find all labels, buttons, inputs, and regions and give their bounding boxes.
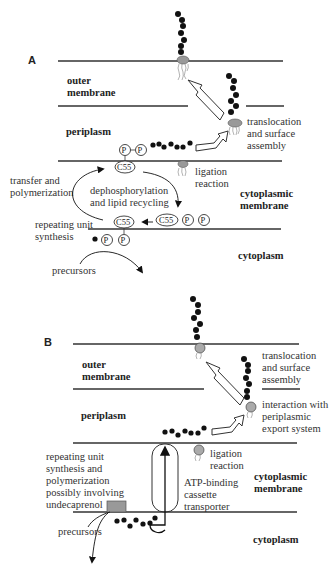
repeating-text-4: possibly involving	[46, 487, 125, 498]
translocation-arrow-icon	[206, 362, 244, 405]
label-cyto-membrane: membrane	[240, 200, 289, 211]
svg-text:P: P	[185, 215, 190, 225]
precursors-text: precursors	[58, 526, 102, 537]
repeating-text-1: repeating unit	[35, 219, 93, 230]
abc-text-2: cassette	[184, 489, 217, 500]
repeating-text-2: synthesis	[35, 231, 74, 242]
svg-text:C55: C55	[159, 215, 173, 225]
dephos-text-2: and lipid recycling	[90, 197, 169, 208]
label-periplasm: periplasm	[66, 126, 111, 137]
translocation-text-2: and surface	[262, 362, 310, 373]
precursors-text: precursors	[52, 265, 96, 276]
label-membrane: membrane	[82, 371, 131, 382]
transfer-text-2: polymerization	[10, 187, 74, 198]
cytoplasmic-polymer	[114, 515, 157, 528]
export-arrow-icon	[196, 131, 228, 151]
svg-text:C55: C55	[116, 217, 130, 227]
translocation-text-3: assembly	[247, 140, 287, 151]
ligase-icon	[194, 445, 204, 455]
capsule-export-diagram: A outer membrane periplasm cytoplasmic m…	[0, 0, 334, 572]
surface-polysaccharide-chain	[175, 11, 189, 80]
abc-text-1: ATP-binding	[184, 477, 239, 488]
panel-a: A outer membrane periplasm cytoplasmic m…	[10, 11, 302, 276]
periplasmic-chain	[226, 73, 242, 135]
precursors-arrow	[92, 513, 108, 562]
panel-b: B outer membrane periplasm cytoplasmic m…	[44, 296, 329, 562]
svg-text:C55: C55	[117, 162, 131, 172]
svg-text:P: P	[201, 215, 206, 225]
export-arrow-icon	[212, 415, 244, 435]
label-cyto-membrane: membrane	[254, 483, 303, 494]
translocation-text-1: translocation	[262, 350, 317, 361]
label-cytoplasmic: cytoplasmic	[240, 188, 293, 199]
surface-polysaccharide-chain	[190, 296, 205, 359]
interaction-text-2: periplasmic	[262, 411, 311, 422]
label-cytoplasm: cytoplasm	[238, 250, 284, 261]
repeating-text-1: repeating unit	[46, 451, 104, 462]
dephos-text-1: dephosphorylation	[90, 185, 169, 196]
periplasmic-chain	[241, 356, 256, 418]
repeating-text-5: undecaprenol	[46, 499, 103, 510]
svg-text:P: P	[104, 235, 109, 245]
repeating-text-2: synthesis and	[46, 463, 103, 474]
svg-text:P: P	[122, 145, 127, 155]
translocation-text-1: translocation	[247, 116, 302, 127]
abc-text-3: transporter	[184, 501, 230, 512]
label-outer: outer	[82, 359, 106, 370]
interaction-text-3: export system	[262, 423, 321, 434]
svg-text:P: P	[138, 145, 143, 155]
svg-text:P: P	[121, 235, 126, 245]
synthesis-complex	[107, 501, 126, 512]
interaction-text-1: interaction with	[262, 399, 329, 410]
label-periplasm: periplasm	[81, 410, 126, 421]
panel-b-label: B	[44, 336, 52, 348]
exported-polymer	[162, 425, 206, 437]
label-outer: outer	[67, 75, 91, 86]
translocation-text-2: and surface	[247, 128, 295, 139]
translocation-arrow-icon	[188, 80, 224, 120]
panel-a-label: A	[28, 54, 36, 66]
label-cytoplasmic: cytoplasmic	[254, 471, 307, 482]
label-membrane: membrane	[67, 87, 116, 98]
ligase-icon	[178, 161, 188, 168]
ligation-text-2: reaction	[195, 178, 230, 189]
transfer-text-1: transfer and	[10, 175, 61, 186]
repeating-text-3: polymerization	[46, 475, 110, 486]
label-cytoplasm: cytoplasm	[253, 534, 299, 545]
ligation-text-1: ligation	[195, 166, 228, 177]
ligation-text-2: reaction	[210, 460, 245, 471]
lipid-linked-polymer: P P	[120, 140, 193, 162]
ligation-text-1: ligation	[210, 448, 243, 459]
translocation-text-3: assembly	[262, 374, 302, 385]
